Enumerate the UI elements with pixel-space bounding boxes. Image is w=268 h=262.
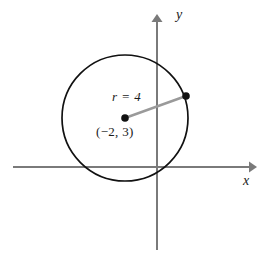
x-axis-label: x xyxy=(243,174,249,188)
coordinate-plane-svg xyxy=(0,0,268,262)
radius-length-label: r = 4 xyxy=(112,90,141,103)
center-point-marker xyxy=(121,114,129,122)
circle-graph-figure: y x r = 4 (−2, 3) xyxy=(0,0,268,262)
circle-edge-point-marker xyxy=(182,92,190,100)
y-axis xyxy=(152,14,163,250)
x-axis xyxy=(13,162,257,173)
y-axis-label: y xyxy=(176,8,182,22)
y-axis-arrowhead-icon xyxy=(152,14,163,22)
center-coordinates-label: (−2, 3) xyxy=(96,125,134,138)
x-axis-arrowhead-icon xyxy=(249,162,257,173)
